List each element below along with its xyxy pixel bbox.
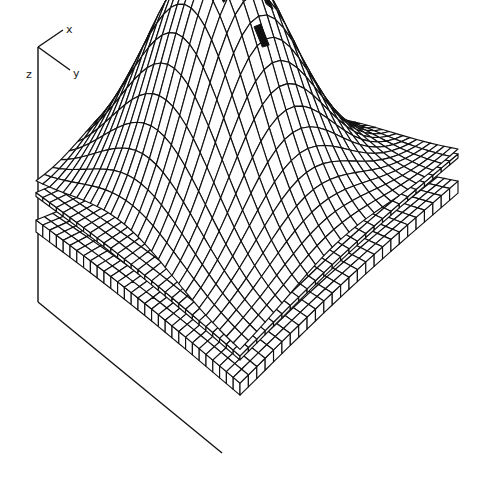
z-axis-label: z — [26, 68, 32, 81]
y-axis — [38, 47, 70, 70]
y-axis-label: y — [73, 67, 80, 80]
x-axis-label: x — [66, 23, 73, 36]
wireframe-figure: x y z — [0, 0, 484, 482]
x-axis — [38, 30, 63, 47]
top-surface — [36, 0, 458, 349]
